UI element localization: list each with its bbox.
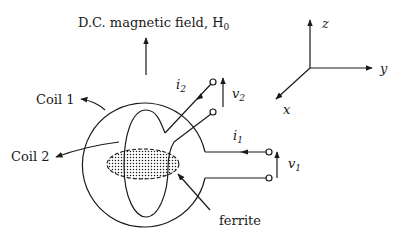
i2-label: i2 xyxy=(176,77,186,94)
i1-label: i1 xyxy=(233,128,243,145)
coil-2-pointer-icon xyxy=(56,142,119,157)
terminal-1a xyxy=(266,149,272,155)
coil-2-lead-upper xyxy=(165,84,211,133)
x-axis-label: x xyxy=(283,102,291,117)
z-axis-label: z xyxy=(321,16,329,31)
x-axis-arrow-icon xyxy=(276,68,310,99)
coil-2-label: Coil 2 xyxy=(11,149,50,164)
terminal-1b xyxy=(266,175,272,181)
y-axis-label: y xyxy=(379,61,388,76)
terminal-2a xyxy=(210,79,216,85)
field-label: D.C. magnetic field, H0 xyxy=(78,15,230,32)
v2-label: v2 xyxy=(232,86,245,103)
coil-1-label: Coil 1 xyxy=(36,92,75,107)
v1-label: v1 xyxy=(288,156,301,173)
terminal-2b xyxy=(210,109,216,115)
ferrite-label: ferrite xyxy=(219,213,261,228)
i1-arrow-icon xyxy=(240,150,248,155)
ferrite-coil-diagram: D.C. magnetic field, H0 v1 i1 i2 v2 Coil… xyxy=(0,0,399,242)
coil-1-pointer-icon xyxy=(81,99,105,110)
